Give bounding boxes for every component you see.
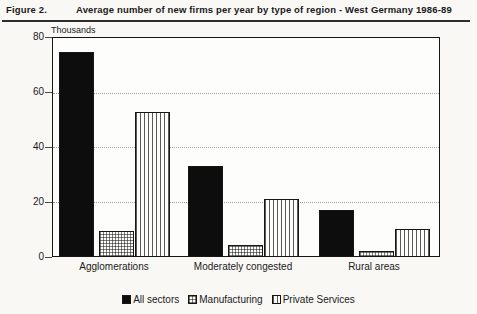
bar-group	[188, 166, 299, 256]
y-tick-mark	[45, 257, 52, 258]
bar-chart: AgglomerationsModerately congestedRural …	[0, 37, 477, 290]
y-tick-mark	[45, 147, 52, 148]
bar	[395, 229, 430, 256]
figure-label: Figure 2.	[6, 4, 47, 15]
legend: All sectorsManufacturingPrivate Services	[0, 294, 477, 305]
y-tick-mark	[45, 37, 52, 38]
y-tick-label: 0	[14, 251, 44, 263]
bar	[99, 231, 134, 256]
title-underline	[2, 20, 470, 22]
legend-label: Manufacturing	[199, 294, 262, 305]
y-tick-label: 60	[14, 86, 44, 98]
legend-label: All sectors	[133, 294, 179, 305]
bar	[359, 251, 394, 256]
figure-header: Figure 2. Average number of new firms pe…	[0, 4, 477, 18]
y-tick-label: 40	[14, 141, 44, 153]
legend-label: Private Services	[283, 294, 355, 305]
x-category-label: Moderately congested	[168, 261, 318, 272]
y-tick-label: 20	[14, 196, 44, 208]
legend-item: Private Services	[272, 294, 355, 305]
legend-swatch	[188, 295, 197, 304]
x-category-label: Agglomerations	[39, 261, 189, 272]
y-tick-label: 80	[14, 31, 44, 43]
legend-item: Manufacturing	[188, 294, 262, 305]
figure-title: Average number of new firms per year by …	[76, 4, 452, 15]
y-tick-mark	[45, 92, 52, 93]
plot-area	[52, 37, 440, 257]
bar	[59, 52, 94, 256]
y-axis-unit-label: Thousands	[51, 25, 96, 35]
bar	[319, 210, 354, 256]
bar	[135, 112, 170, 256]
bar	[228, 245, 263, 256]
bar	[264, 199, 299, 256]
legend-swatch	[272, 295, 281, 304]
legend-item: All sectors	[122, 294, 179, 305]
bar-group	[319, 210, 430, 256]
y-tick-mark	[45, 202, 52, 203]
x-category-label: Rural areas	[299, 261, 449, 272]
bar-group	[59, 52, 170, 256]
legend-swatch	[122, 295, 131, 304]
bar	[188, 166, 223, 256]
